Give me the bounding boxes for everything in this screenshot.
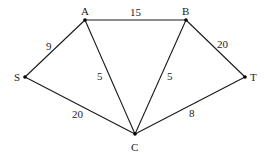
edge-B-C: [135, 20, 186, 134]
weighted-graph: S A B T C 9 15 20 5 5 20 8: [0, 0, 265, 156]
edge-weight-S-A: 9: [46, 40, 52, 52]
node-label-S: S: [14, 71, 20, 83]
node-T: [243, 75, 247, 79]
node-label-A: A: [81, 5, 89, 17]
edge-weight-B-T: 20: [217, 38, 229, 50]
node-C: [133, 132, 137, 136]
node-A: [83, 18, 87, 22]
node-B: [184, 18, 188, 22]
node-label-C: C: [131, 141, 138, 153]
edge-weight-C-T: 8: [189, 107, 195, 119]
edge-weight-A-C: 5: [97, 70, 103, 82]
node-label-B: B: [182, 5, 189, 17]
edge-C-T: [135, 77, 245, 134]
edge-S-A: [25, 20, 85, 77]
edge-weight-B-C: 5: [167, 70, 173, 82]
edge-A-C: [85, 20, 135, 134]
edge-weight-A-B: 15: [130, 6, 142, 18]
edge-B-T: [186, 20, 245, 77]
edge-weight-S-C: 20: [72, 108, 84, 120]
node-S: [23, 75, 27, 79]
edge-S-C: [25, 77, 135, 134]
node-label-T: T: [250, 71, 257, 83]
